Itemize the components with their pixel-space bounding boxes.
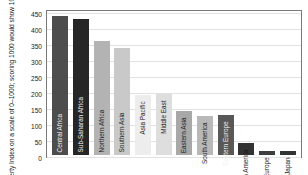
bar[interactable]: Japan [280,151,296,155]
bar[interactable]: Asia Pacific [135,95,151,155]
y-axis-tick-label: 150 [31,107,42,114]
bar-slot: Central Africa [50,13,71,155]
y-axis-tick-label: 100 [31,123,42,130]
plot-area: Central AfricaSub-Saharan AfricaNorthern… [46,10,302,158]
bar[interactable]: Central Africa [52,16,68,155]
bar[interactable]: Northern Africa [94,41,110,155]
bar[interactable]: Middle East [156,94,172,155]
bar-slot: Western Europe [257,13,278,155]
bar-category-label: Southern Asia [119,112,125,152]
bar-category-label: Sub-Saharan Africa [78,97,84,152]
poverty-index-bar-chart: Human Poverty Index on a scale of 0–1000… [0,0,308,175]
bar[interactable]: Eastern Asia [176,111,192,155]
bar-series: Central AfricaSub-Saharan AfricaNorthern… [50,13,298,155]
y-axis-tick-label: 0 [38,155,42,162]
bar-category-label: Eastern Asia [181,117,187,153]
y-axis-tick-label: 400 [31,27,42,34]
y-axis-title-text: Human Poverty Index on a scale of 0–1000… [8,0,16,175]
y-axis-tick-label: 250 [31,75,42,82]
bar-slot: Sub-Saharan Africa [71,13,92,155]
bar-slot: Eastern Asia [174,13,195,155]
bar[interactable]: North America [238,143,254,155]
bar-slot: Northern Africa [91,13,112,155]
bar[interactable]: Eastern Europe [218,115,234,155]
y-axis-tick-label: 50 [35,139,42,146]
bar-category-label: Middle East [160,100,166,133]
bar-slot: Asia Pacific [133,13,154,155]
y-axis-tick-label: 450 [31,11,42,18]
bar[interactable]: Southern Asia [114,48,130,155]
bar-slot: Middle East [153,13,174,155]
bar[interactable]: Western Europe [259,151,275,155]
y-axis-tick-label: 200 [31,91,42,98]
bar[interactable]: Sub-Saharan Africa [73,19,89,155]
bar-category-label: Central Africa [57,114,63,152]
bar-category-label: Japan [285,158,291,175]
gridline [47,157,301,158]
y-axis-tick-label: 350 [31,43,42,50]
bar-category-label: Eastern Europe [223,121,229,165]
bar-slot: North America [236,13,257,155]
y-axis-title: Human Poverty Index on a scale of 0–1000… [0,0,24,175]
y-axis-tick-labels: 450400350300250200150100500 [22,12,44,156]
bar-slot: Eastern Europe [215,13,236,155]
bar-category-label: North America [243,149,249,175]
bar[interactable]: South America [197,116,213,155]
bar-category-label: Western Europe [264,157,270,175]
bar-slot: Japan [277,13,298,155]
bar-slot: South America [195,13,216,155]
bar-slot: Southern Asia [112,13,133,155]
bar-category-label: Northern Africa [98,109,104,152]
y-axis-tick-label: 300 [31,59,42,66]
bar-category-label: Asia Pacific [140,101,146,134]
